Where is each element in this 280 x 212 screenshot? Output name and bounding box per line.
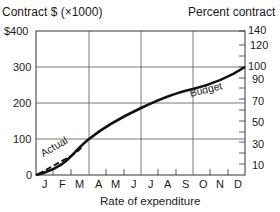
month-label: M	[75, 179, 84, 190]
month-label: O	[199, 179, 208, 190]
right-axis-title: Percent contract	[188, 6, 275, 18]
y-tick-0: 0	[26, 170, 32, 181]
y-tick-300: 300	[13, 62, 31, 73]
y-tick-200: 200	[13, 98, 31, 109]
month-label: D	[234, 179, 242, 190]
left-axis-title: Contract $ (×1000)	[2, 6, 102, 18]
h-gridlines	[36, 67, 245, 139]
month-label: N	[216, 179, 224, 190]
right-tick-90: 90	[252, 74, 264, 85]
right-tick-70: 70	[252, 96, 264, 107]
month-label: A	[95, 179, 102, 190]
x-axis-title: Rate of expenditure	[100, 196, 200, 208]
right-tick-50: 50	[252, 117, 264, 128]
month-label: F	[59, 179, 66, 190]
month-label: J	[148, 179, 154, 190]
month-label: J	[42, 179, 48, 190]
month-label: M	[111, 179, 120, 190]
month-label: S	[182, 179, 189, 190]
y-tick-400: $400	[4, 26, 28, 37]
month-label: J	[131, 179, 137, 190]
month-ticks	[53, 169, 228, 175]
right-tick-120: 120	[250, 40, 268, 51]
month-label: A	[164, 179, 171, 190]
y-tick-100: 100	[13, 134, 31, 145]
right-tick-100: 100	[248, 61, 266, 72]
right-tick-10: 10	[252, 160, 264, 171]
right-tick-30: 30	[252, 139, 264, 150]
right-ticks	[239, 31, 245, 164]
right-tick-140: 140	[248, 25, 266, 36]
